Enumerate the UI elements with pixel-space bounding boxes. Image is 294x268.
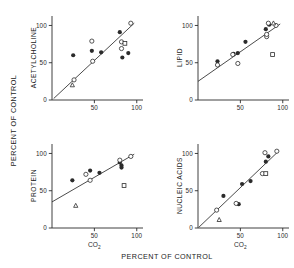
svg-text:100: 100 bbox=[182, 150, 193, 157]
svg-text:100: 100 bbox=[131, 232, 142, 239]
panel-protein: PROTEIN 05010050100CO2 bbox=[22, 136, 147, 254]
svg-text:CO2: CO2 bbox=[88, 241, 101, 250]
data-point-filled-circle bbox=[120, 55, 124, 59]
data-point-filled-circle bbox=[70, 178, 74, 182]
svg-text:50: 50 bbox=[91, 232, 99, 239]
data-point-open-circle bbox=[275, 149, 279, 153]
panel-protein-plot: 05010050100CO2 bbox=[22, 136, 147, 254]
panel-protein-ylabel: PROTEIN bbox=[30, 157, 37, 215]
data-point-filled-circle bbox=[71, 53, 75, 57]
panel-nucleic-acids-ylabel: NUCLEIC ACIDS bbox=[176, 152, 183, 220]
svg-text:50: 50 bbox=[40, 59, 48, 66]
svg-text:100: 100 bbox=[131, 104, 142, 111]
data-point-filled-circle bbox=[99, 50, 103, 54]
svg-text:CO2: CO2 bbox=[234, 241, 247, 250]
svg-text:100: 100 bbox=[277, 104, 288, 111]
data-point-open-circle bbox=[129, 154, 133, 158]
svg-text:50: 50 bbox=[237, 104, 245, 111]
panel-lipid-plot: 05010050100 bbox=[168, 8, 293, 126]
svg-text:50: 50 bbox=[40, 187, 48, 194]
data-point-open-circle bbox=[266, 21, 270, 25]
data-point-open-circle bbox=[215, 63, 219, 67]
data-point-filled-circle bbox=[221, 194, 225, 198]
data-point-filled-circle bbox=[126, 51, 130, 55]
data-point-open-triangle bbox=[217, 218, 221, 222]
svg-text:50: 50 bbox=[91, 104, 99, 111]
data-point-open-circle bbox=[263, 151, 267, 155]
panel-acetylcholine-plot: 05010050100 bbox=[22, 8, 147, 126]
figure-scatter-grid: PERCENT OF CONTROL PERCENT OF CONTROL AC… bbox=[0, 0, 294, 268]
data-point-filled-circle bbox=[240, 182, 244, 186]
data-point-open-circle bbox=[84, 172, 88, 176]
data-point-open-square bbox=[122, 184, 126, 188]
data-point-filled-circle bbox=[118, 30, 122, 34]
svg-text:50: 50 bbox=[186, 187, 194, 194]
data-point-open-square bbox=[271, 53, 275, 57]
svg-text:100: 100 bbox=[182, 22, 193, 29]
data-point-open-circle bbox=[215, 208, 219, 212]
svg-text:0: 0 bbox=[43, 96, 47, 103]
data-point-open-circle bbox=[129, 21, 133, 25]
data-point-filled-circle bbox=[264, 27, 268, 31]
data-point-open-circle bbox=[88, 178, 92, 182]
data-point-filled-circle bbox=[97, 171, 101, 175]
data-point-filled-circle bbox=[119, 163, 123, 167]
data-point-open-circle bbox=[90, 39, 94, 43]
data-point-open-circle bbox=[265, 32, 269, 36]
data-point-open-circle bbox=[91, 59, 95, 63]
data-point-open-circle bbox=[72, 78, 76, 82]
data-point-open-circle bbox=[236, 61, 240, 65]
data-point-open-square bbox=[264, 172, 268, 176]
data-point-filled-circle bbox=[236, 51, 240, 55]
data-point-filled-circle bbox=[88, 169, 92, 173]
data-point-open-square bbox=[123, 41, 127, 45]
svg-text:100: 100 bbox=[36, 22, 47, 29]
svg-text:50: 50 bbox=[186, 59, 194, 66]
data-point-open-triangle bbox=[271, 21, 275, 25]
data-point-filled-circle bbox=[243, 40, 247, 44]
panel-nucleic-acids: NUCLEIC ACIDS 05010050100CO2 bbox=[168, 136, 293, 254]
data-point-open-triangle bbox=[70, 83, 74, 87]
data-point-filled-circle bbox=[266, 154, 270, 158]
svg-text:0: 0 bbox=[43, 224, 47, 231]
svg-text:0: 0 bbox=[189, 224, 193, 231]
svg-text:0: 0 bbox=[189, 96, 193, 103]
data-point-filled-circle bbox=[248, 179, 252, 183]
data-point-open-circle bbox=[234, 201, 238, 205]
svg-text:100: 100 bbox=[36, 150, 47, 157]
panel-acetylcholine-ylabel: ACETYLCHOLINE bbox=[30, 23, 37, 93]
data-point-filled-circle bbox=[264, 160, 268, 164]
data-point-open-triangle bbox=[74, 203, 78, 207]
data-point-open-circle bbox=[119, 46, 123, 50]
data-point-open-circle bbox=[231, 52, 235, 56]
panel-acetylcholine: ACETYLCHOLINE 05010050100 bbox=[22, 8, 147, 126]
global-y-axis-label: PERCENT OF CONTROL bbox=[9, 51, 18, 191]
panel-lipid-ylabel: LIPID bbox=[176, 29, 183, 87]
svg-text:50: 50 bbox=[237, 232, 245, 239]
data-point-open-circle bbox=[118, 158, 122, 162]
panel-nucleic-acids-plot: 05010050100CO2 bbox=[168, 136, 293, 254]
panel-lipid: LIPID 05010050100 bbox=[168, 8, 293, 126]
svg-text:100: 100 bbox=[277, 232, 288, 239]
data-point-filled-circle bbox=[90, 49, 94, 53]
